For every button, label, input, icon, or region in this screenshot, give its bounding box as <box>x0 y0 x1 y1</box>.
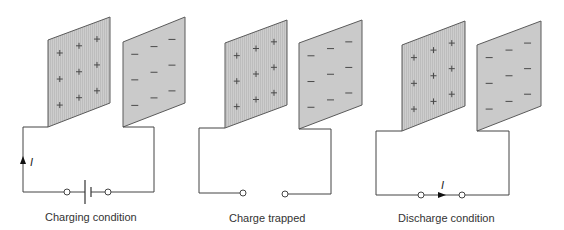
capacitor-diagram-svg: I Charging condition Charge trapped <box>0 0 564 230</box>
current-arrow-right-icon <box>438 192 446 198</box>
terminal <box>105 189 111 195</box>
terminal <box>418 192 424 198</box>
caption-trapped: Charge trapped <box>229 212 305 224</box>
panel-trapped: Charge trapped <box>199 20 362 224</box>
caption-discharge: Discharge condition <box>398 212 495 224</box>
circuit-wire-right <box>288 129 331 194</box>
circuit-wire-left <box>376 131 418 195</box>
current-label: I <box>441 179 444 191</box>
terminal <box>240 190 246 196</box>
circuit-wire-left <box>199 128 240 193</box>
current-arrow-up-icon <box>20 156 26 164</box>
caption-charging: Charging condition <box>45 211 137 223</box>
panel-discharge: I Discharge condition <box>376 21 541 224</box>
terminal <box>282 191 288 197</box>
terminal <box>64 189 70 195</box>
capacitor-diagram: I Charging condition Charge trapped <box>0 0 564 230</box>
terminal <box>459 192 465 198</box>
current-label: I <box>30 156 33 168</box>
circuit-wire-right <box>465 131 509 195</box>
panel-charging: I Charging condition <box>20 17 185 223</box>
circuit-wire-right <box>111 127 154 192</box>
